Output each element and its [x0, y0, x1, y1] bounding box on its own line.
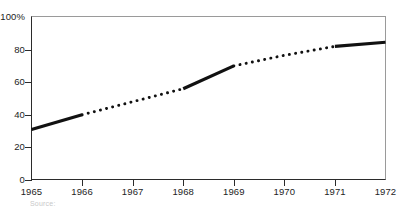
y-axis-tick-mark: [25, 180, 32, 181]
plot-area-frame: [31, 16, 386, 180]
x-axis-tick-label: 1971: [313, 186, 357, 197]
y-axis-tick-label: 20: [0, 142, 25, 152]
source-note: Source:: [30, 200, 100, 209]
x-axis-tick-label: 1968: [161, 186, 205, 197]
x-axis-tick-mark: [284, 180, 285, 186]
y-axis-tick-mark: [25, 82, 32, 83]
x-axis-tick-mark: [183, 180, 184, 186]
y-axis-tick-label: 60: [0, 77, 25, 87]
x-axis-tick-mark: [82, 180, 83, 186]
y-axis-tick-mark: [25, 50, 32, 51]
x-axis-tick-label: 1972: [364, 186, 403, 197]
y-axis-tick-label: 40: [0, 110, 25, 120]
y-axis-tick-label: 100%: [0, 12, 25, 22]
x-axis-tick-label: 1969: [212, 186, 256, 197]
x-axis-tick-mark: [133, 180, 134, 186]
y-axis-tick-label: 0: [0, 175, 25, 185]
x-axis-tick-mark: [234, 180, 235, 186]
x-axis-tick-label: 1965: [10, 186, 54, 197]
y-axis-tick-mark: [25, 115, 32, 116]
x-axis-tick-mark: [335, 180, 336, 186]
chart-figure: 020406080100%196519661967196819691970197…: [0, 0, 403, 213]
y-axis-tick-mark: [25, 147, 32, 148]
x-axis-tick-label: 1966: [60, 186, 104, 197]
y-axis-tick-label: 80: [0, 45, 25, 55]
x-axis-tick-label: 1970: [262, 186, 306, 197]
x-axis-tick-label: 1967: [111, 186, 155, 197]
